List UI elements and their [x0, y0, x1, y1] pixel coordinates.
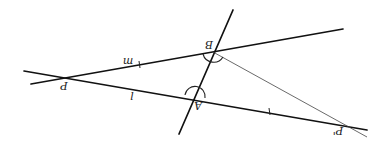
label-p-prime: P' [333, 124, 344, 137]
label-l: l [130, 89, 134, 102]
line-m [31, 29, 343, 84]
label-a: A [194, 99, 203, 112]
label-p: P [60, 79, 69, 92]
label-b: B [205, 38, 214, 51]
tick-mark-m [139, 61, 140, 68]
geometry-diagram: m l P B A P' [0, 0, 390, 143]
transversal-line [179, 10, 233, 134]
label-m: m [123, 55, 133, 68]
